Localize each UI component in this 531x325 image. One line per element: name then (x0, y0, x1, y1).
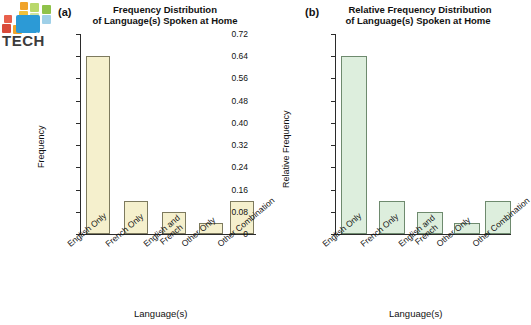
panel-b: (b) Relative Frequency Distribution of L… (257, 0, 514, 325)
panel-b-tag: (b) (305, 6, 319, 18)
panel-a-x-axis-label: Language(s) (134, 308, 187, 319)
panel-a-title-line2: of Language(s) Spoken at Home (72, 15, 258, 26)
panel-a-bars (80, 34, 256, 234)
panel-b-plot: 0 0.08 0.16 0.24 0.32 0.40 0.48 0.56 0.6… (335, 34, 511, 234)
ytick-label: 0.48 (208, 97, 248, 105)
panel-a-title-line1: Frequency Distribution (80, 4, 250, 15)
panel-b-bars (335, 34, 511, 234)
panel-a-tag: (a) (58, 6, 71, 18)
ytick-label: 0.24 (208, 163, 248, 171)
panel-b-title-line2: of Language(s) Spoken at Home (323, 15, 513, 26)
ytick-label: 0.40 (208, 119, 248, 127)
ytick-label: 0.08 (208, 208, 248, 216)
panel-a-plot: 0 2 4 6 8 10 12 14 16 18 (80, 34, 256, 234)
ytick-label: 0 (208, 230, 248, 238)
panel-b-title-line1: Relative Frequency Distribution (327, 4, 513, 15)
ytick-label: 0.64 (208, 52, 248, 60)
bar-english-only (86, 56, 110, 234)
panel-b-x-axis-label: Language(s) (389, 308, 442, 319)
ytick-label: 0.56 (208, 74, 248, 82)
bar-english-only (341, 56, 367, 234)
ytick-label: 0.32 (208, 141, 248, 149)
panel-b-y-axis-label: Relative Frequency (281, 110, 291, 188)
ytick-label: 0.16 (208, 186, 248, 194)
panel-a-y-axis-label: Frequency (36, 125, 46, 168)
ytick-label: 0.72 (208, 30, 248, 38)
